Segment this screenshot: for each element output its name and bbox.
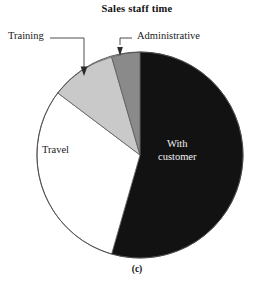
callout-label-administrative: Administrative (137, 30, 200, 42)
slice-label-with-customer: With customer (158, 138, 197, 163)
figure-caption: (c) (0, 264, 274, 274)
slice-label-with-customer-line2: customer (158, 151, 197, 164)
callout-label-training: Training (8, 30, 44, 42)
figure-container: Sales staff time Training Administrative… (0, 0, 274, 286)
pie-chart-svg (0, 0, 274, 286)
slice-label-with-customer-line1: With (158, 138, 197, 151)
slice-label-travel: Travel (42, 144, 69, 157)
